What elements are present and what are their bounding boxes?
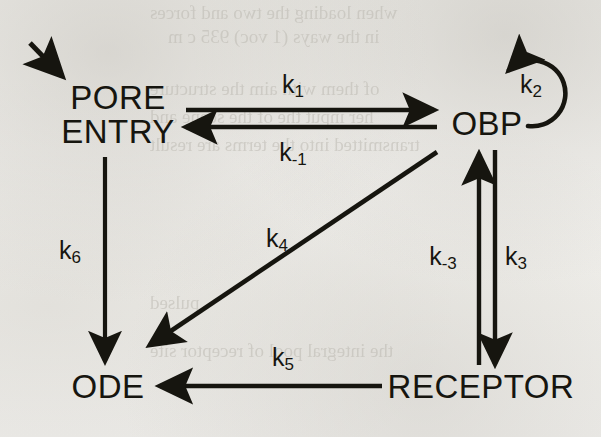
k4-arrow — [150, 152, 437, 345]
rate-label-subscript: -1 — [292, 150, 307, 169]
node-label-line: ODE — [71, 370, 144, 404]
rate-label-subscript: -3 — [442, 254, 457, 273]
rate-label-subscript: 3 — [518, 254, 527, 273]
rate-label-subscript: 2 — [533, 82, 542, 101]
rate-label-k2: k2 — [520, 72, 542, 97]
node-ode: ODE — [71, 370, 144, 404]
rate-label-base: k — [520, 70, 533, 98]
rate-label-subscript: 5 — [285, 355, 294, 374]
rate-label-base: k — [429, 242, 442, 270]
node-pore-entry: POREENTRY — [61, 81, 175, 148]
rate-label-subscript: 6 — [72, 248, 81, 267]
inflow-arrow — [30, 43, 62, 76]
rate-label-k6: k6 — [59, 238, 81, 263]
node-label-line: OBP — [451, 107, 522, 141]
rate-label-base: k — [272, 343, 285, 371]
node-receptor: RECEPTOR — [388, 370, 575, 404]
rate-label-base: k — [59, 236, 72, 264]
rate-label-k5: k5 — [272, 345, 294, 370]
node-label-line: RECEPTOR — [388, 370, 575, 404]
rate-label-k1: k1 — [282, 72, 304, 97]
rate-label-base: k — [505, 242, 518, 270]
rate-label-k-3: k-3 — [429, 244, 457, 269]
node-label-line: PORE — [61, 81, 175, 115]
rate-label-base: k — [282, 70, 295, 98]
node-obp: OBP — [451, 107, 522, 141]
rate-label-subscript: 4 — [279, 236, 288, 255]
rate-label-base: k — [279, 138, 292, 166]
rate-label-subscript: 1 — [295, 82, 304, 101]
diagram-canvas: when loading the two and forcesin the wa… — [0, 0, 601, 437]
rate-label-k-1: k-1 — [279, 140, 307, 165]
rate-label-k3: k3 — [505, 244, 527, 269]
node-label-line: ENTRY — [61, 115, 175, 149]
rate-label-k4: k4 — [266, 226, 288, 251]
rate-label-base: k — [266, 224, 279, 252]
